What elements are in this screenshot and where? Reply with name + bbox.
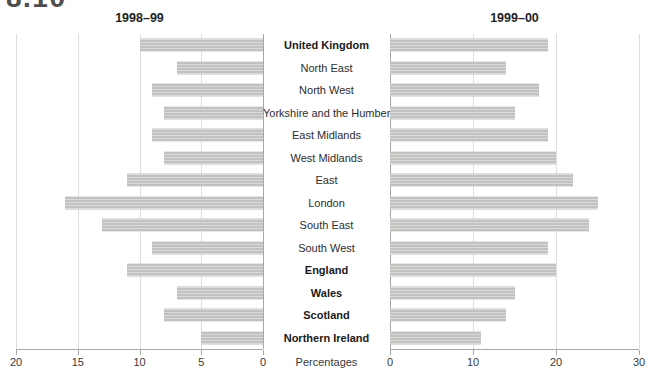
bar-east-midlands-1999-00 [390, 129, 548, 142]
gridline-left-10 [140, 34, 141, 349]
tick-mark-right-20 [556, 350, 557, 355]
tick-label-left-15: 15 [72, 356, 84, 368]
bar-united-kingdom-1998-99 [140, 39, 264, 52]
gridline-left-15 [78, 34, 79, 349]
gridline-left-5 [201, 34, 202, 349]
bar-east-1998-99 [127, 174, 263, 187]
category-label-south-west: South West [263, 242, 390, 254]
bar-scotland-1998-99 [164, 309, 263, 322]
bar-south-west-1998-99 [152, 241, 263, 254]
tick-label-left-5: 5 [198, 356, 204, 368]
gridline-right-20 [556, 34, 557, 349]
bar-scotland-1999-00 [390, 309, 506, 322]
tick-label-right-0: 0 [387, 356, 393, 368]
category-label-north-west: North West [263, 84, 390, 96]
bar-united-kingdom-1999-00 [390, 39, 548, 52]
bar-london-1999-00 [390, 196, 598, 209]
tick-mark-left-20 [16, 350, 17, 355]
bar-east-1999-00 [390, 174, 573, 187]
tick-label-left-20: 20 [10, 356, 22, 368]
category-label-london: London [263, 197, 390, 209]
bar-wales-1999-00 [390, 286, 515, 299]
zero-axis-line-right-0 [390, 34, 391, 349]
x-axis-title: Percentages [263, 356, 390, 368]
category-label-scotland: Scotland [263, 309, 390, 321]
gridline-right-30 [639, 34, 640, 349]
category-label-north-east: North East [263, 62, 390, 74]
bar-wales-1998-99 [177, 286, 263, 299]
bar-london-1998-99 [65, 196, 263, 209]
chart-figure: 8.10 1998–99 1999–00 20151050 Percentage… [0, 0, 653, 374]
category-label-east-midlands: East Midlands [263, 129, 390, 141]
bar-north-west-1998-99 [152, 84, 263, 97]
bar-west-midlands-1998-99 [164, 151, 263, 164]
bar-north-east-1999-00 [390, 61, 506, 74]
bar-england-1998-99 [127, 264, 263, 277]
tick-mark-left-0 [263, 350, 264, 355]
bar-south-west-1999-00 [390, 241, 548, 254]
tick-mark-right-10 [473, 350, 474, 355]
category-label-west-midlands: West Midlands [263, 152, 390, 164]
category-label-yorkshire-and-the-humber: Yorkshire and the Humber [263, 107, 390, 119]
tick-mark-left-15 [78, 350, 79, 355]
tick-label-right-30: 30 [633, 356, 645, 368]
plot-area: 20151050 Percentages United KingdomNorth… [0, 34, 653, 349]
bar-east-midlands-1998-99 [152, 129, 263, 142]
tick-mark-left-5 [201, 350, 202, 355]
category-label-column: Percentages United KingdomNorth EastNort… [263, 34, 390, 349]
bar-northern-ireland-1998-99 [201, 331, 263, 344]
bar-northern-ireland-1999-00 [390, 331, 481, 344]
bar-south-east-1998-99 [102, 219, 263, 232]
bar-north-west-1999-00 [390, 84, 539, 97]
bar-england-1999-00 [390, 264, 556, 277]
tick-mark-left-10 [140, 350, 141, 355]
category-label-south-east: South East [263, 219, 390, 231]
bar-west-midlands-1999-00 [390, 151, 556, 164]
tick-mark-right-30 [639, 350, 640, 355]
left-panel-title: 1998–99 [16, 11, 263, 25]
category-label-wales: Wales [263, 287, 390, 299]
category-label-england: England [263, 264, 390, 276]
right-panel-1999-00: 0102030 [390, 34, 639, 350]
tick-label-right-20: 20 [550, 356, 562, 368]
gridline-right-10 [473, 34, 474, 349]
right-panel-title: 1999–00 [390, 11, 639, 25]
category-label-east: East [263, 174, 390, 186]
gridline-left-20 [16, 34, 17, 349]
bar-south-east-1999-00 [390, 219, 589, 232]
bar-yorkshire-and-the-humber-1998-99 [164, 106, 263, 119]
tick-label-right-10: 10 [467, 356, 479, 368]
left-panel-1998-99: 20151050 [16, 34, 263, 350]
category-label-northern-ireland: Northern Ireland [263, 332, 390, 344]
tick-label-left-10: 10 [133, 356, 145, 368]
bar-yorkshire-and-the-humber-1999-00 [390, 106, 515, 119]
category-label-united-kingdom: United Kingdom [263, 39, 390, 51]
tick-mark-right-0 [390, 350, 391, 355]
bar-north-east-1998-99 [177, 61, 263, 74]
